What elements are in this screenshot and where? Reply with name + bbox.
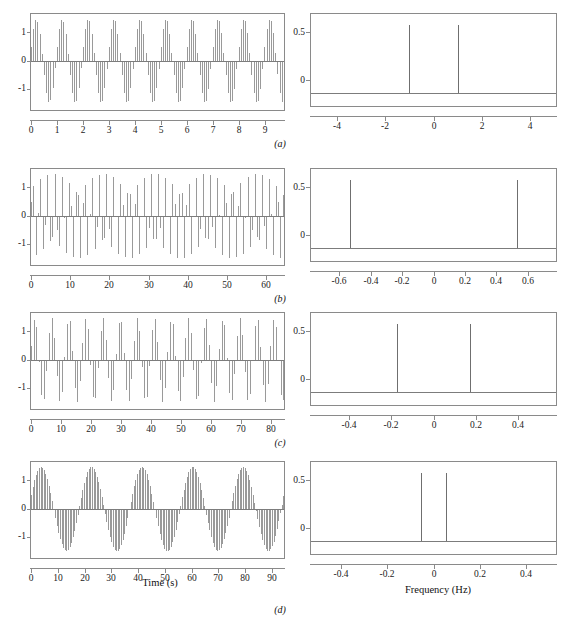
stem-line (149, 216, 150, 228)
stem-line (257, 216, 258, 237)
stem-line (131, 360, 132, 379)
stem-line (193, 21, 194, 61)
stem-line (409, 25, 410, 93)
stem-line (52, 216, 53, 237)
stem-line (83, 203, 84, 216)
stem-line (273, 33, 274, 61)
stem-line (106, 509, 107, 522)
ytick-label: 0.5 (281, 326, 305, 336)
stem-line (165, 360, 166, 388)
stem-line (270, 509, 271, 549)
zero-baseline (311, 93, 556, 94)
stem-line (264, 216, 265, 226)
stem-line (259, 216, 260, 240)
ytick-label: 1 (12, 27, 26, 37)
stem-line (66, 509, 67, 551)
stem-line (222, 216, 223, 255)
stem-line (49, 333, 50, 360)
stem-line (135, 480, 136, 509)
x-axis-line (30, 419, 285, 420)
stem-line (102, 216, 103, 240)
stem-line (146, 53, 147, 61)
stem-line (66, 34, 67, 61)
stem-line (188, 472, 189, 509)
stem-line (102, 61, 103, 101)
stem-line (265, 360, 266, 402)
stem-line (118, 216, 119, 254)
stem-line (222, 509, 223, 544)
stem-line (94, 53, 95, 61)
stem-line (202, 61, 203, 93)
xtick-label: 60 (195, 424, 227, 434)
stem-line (221, 33, 222, 61)
stem-line (171, 53, 172, 61)
xtick-label: 4 (514, 121, 546, 131)
stem-line (234, 61, 235, 89)
stem-line (191, 333, 192, 360)
stem-line (120, 53, 121, 61)
stem-line (258, 61, 259, 101)
stem-line (82, 490, 83, 509)
panel-c-spectrum-plot (310, 312, 557, 406)
stem-line (255, 326, 256, 360)
stem-line (260, 61, 261, 89)
stem-line (134, 341, 135, 360)
xtick-label: -4 (321, 121, 353, 131)
stem-line (139, 331, 140, 360)
stem-line (76, 509, 77, 523)
stem-line (198, 477, 199, 509)
stem-line (212, 216, 213, 227)
stem-line (133, 61, 134, 69)
stem-line (264, 509, 265, 545)
stem-line (31, 346, 32, 360)
stem-line (238, 474, 239, 509)
stem-line (198, 360, 199, 396)
xtick-label: 0.2 (460, 420, 492, 430)
stem-line (59, 29, 60, 61)
stem-line (184, 216, 185, 258)
stem-line (76, 61, 77, 101)
stem-line (37, 471, 38, 509)
stem-line (97, 216, 98, 227)
stem-line (123, 205, 124, 216)
xtick-label: -0.6 (323, 276, 355, 286)
stem-line (75, 360, 76, 388)
stem-line (458, 25, 459, 93)
stem-line (34, 480, 35, 509)
zero-baseline (31, 360, 284, 361)
stem-line (229, 216, 230, 258)
stem-line (93, 360, 94, 397)
stem-line (74, 509, 75, 531)
stem-line (214, 360, 215, 402)
stem-line (48, 61, 49, 102)
stem-line (251, 487, 252, 509)
stem-line (66, 216, 67, 253)
zero-baseline (311, 392, 556, 393)
stem-line (222, 321, 223, 360)
stem-line (421, 473, 422, 541)
stem-line (95, 472, 96, 509)
stem-line (269, 20, 270, 61)
stem-line (180, 360, 181, 401)
ytick-mark (306, 379, 310, 380)
stem-line (36, 327, 37, 360)
stem-line (44, 61, 45, 75)
stem-line (156, 509, 157, 518)
stem-line (275, 509, 276, 536)
stem-line (116, 509, 117, 551)
stem-line (137, 474, 138, 509)
xtick-label: 0 (418, 276, 450, 286)
stem-line (176, 61, 177, 93)
ytick-mark (27, 61, 31, 62)
stem-line (40, 34, 41, 61)
panel-label-d: (d) (255, 604, 305, 615)
stem-line (213, 47, 214, 61)
stem-line (197, 53, 198, 61)
stem-line (113, 177, 114, 216)
stem-line (82, 343, 83, 360)
stem-line (96, 61, 97, 75)
stem-line (124, 61, 125, 93)
stem-line (159, 61, 160, 69)
stem-line (84, 483, 85, 509)
stem-line (262, 61, 263, 69)
